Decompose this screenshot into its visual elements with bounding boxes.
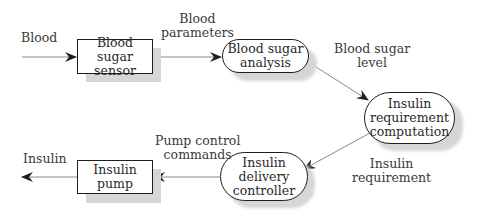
flow-label-blood: Blood bbox=[21, 31, 57, 45]
node-label-line: pump bbox=[93, 177, 137, 191]
flow-label-blood-sugar-level: Blood sugar level bbox=[334, 42, 410, 70]
flow-label-pump-control-commands: Pump control commands bbox=[155, 134, 240, 162]
node-label-line: controller bbox=[233, 184, 295, 198]
node-blood-sugar-analysis: Blood sugar analysis bbox=[222, 39, 309, 73]
flow-label-line: Blood bbox=[21, 30, 57, 45]
flow-label-insulin-requirement: Insulin requirement bbox=[352, 157, 431, 185]
node-label-line: sensor bbox=[78, 64, 152, 78]
node-label-line: Insulin bbox=[370, 97, 450, 111]
node-label-line: Insulin bbox=[233, 156, 295, 170]
node-insulin-pump: Insulin pump bbox=[77, 160, 153, 194]
flow-label-line: Insulin bbox=[352, 157, 431, 171]
flow-label-insulin: Insulin bbox=[23, 152, 67, 166]
diagram-canvas: Blood sugar sensor Blood sugar analysis … bbox=[0, 0, 477, 216]
flow-label-line: commands bbox=[155, 148, 240, 162]
flow-label-line: Pump control bbox=[155, 134, 240, 148]
node-label-line: Blood sugar bbox=[227, 42, 303, 56]
node-insulin-requirement-computation: Insulin requirement computation bbox=[364, 92, 455, 144]
flow-label-line: parameters bbox=[161, 26, 234, 40]
node-label-line: delivery bbox=[233, 170, 295, 184]
flow-label-line: level bbox=[334, 56, 410, 70]
flow-label-line: requirement bbox=[352, 171, 431, 185]
node-blood-sugar-sensor: Blood sugar sensor bbox=[77, 39, 153, 74]
node-label-line: analysis bbox=[227, 56, 303, 70]
node-label-line: computation bbox=[370, 125, 450, 139]
node-label-line: Insulin bbox=[93, 163, 137, 177]
node-label-line: Blood sugar bbox=[78, 36, 152, 64]
flow-label-line: Insulin bbox=[23, 151, 67, 166]
flow-label-line: Blood bbox=[161, 12, 234, 26]
flow-label-blood-parameters: Blood parameters bbox=[161, 12, 234, 40]
node-label-line: requirement bbox=[370, 111, 450, 125]
flow-label-line: Blood sugar bbox=[334, 42, 410, 56]
